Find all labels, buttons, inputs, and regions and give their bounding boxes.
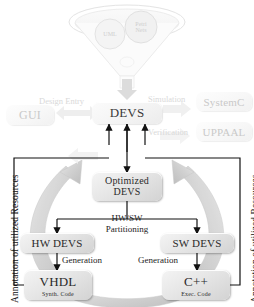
- funnel-source-uml-label: UML: [96, 31, 124, 37]
- edge-label-simulation: Simulation: [148, 94, 185, 104]
- edge-label-design-entry: Design Entry: [39, 96, 84, 106]
- funnel-source-petri-nets-label: Petri Nets: [128, 21, 154, 34]
- box-cpp-subtitle: Exec. Code: [181, 291, 211, 297]
- side-label-right: Annotation of utilized Resources: [250, 174, 254, 303]
- box-vhdl-subtitle: Synth. Code: [42, 291, 74, 297]
- box-sw-devs-label: SW DEVS: [172, 237, 221, 249]
- edge-label-verification: Verification: [148, 127, 188, 137]
- diagram-canvas: GUI DEVS SystemC UPPAAL Optimized DEVS H…: [0, 0, 254, 307]
- box-optimized-devs-line2: DEVS: [114, 187, 141, 198]
- box-devs[interactable]: DEVS: [92, 102, 162, 124]
- box-sw-devs[interactable]: SW DEVS: [160, 233, 234, 253]
- box-gui[interactable]: GUI: [6, 105, 54, 125]
- box-uppaal[interactable]: UPPAAL: [196, 122, 252, 141]
- box-hw-devs-label: HW DEVS: [31, 237, 82, 249]
- box-cpp[interactable]: C++ Exec. Code: [162, 270, 230, 300]
- box-optimized-devs-line1: Optimized: [105, 176, 149, 187]
- box-gui-label: GUI: [19, 108, 41, 123]
- box-vhdl-label: VHDL: [40, 274, 77, 290]
- box-hw-devs[interactable]: HW DEVS: [20, 233, 94, 253]
- edge-label-generation-left: Generation: [62, 255, 102, 265]
- diagram-artwork: [0, 0, 254, 307]
- box-devs-label: DEVS: [110, 105, 145, 121]
- edge-label-hwsw: HW/SW: [97, 213, 157, 223]
- side-label-left: Annotation of utilized Resources: [10, 174, 20, 303]
- box-uppaal-label: UPPAAL: [203, 126, 246, 138]
- funnel-graphic: [69, 5, 185, 88]
- box-cpp-label: C++: [184, 274, 208, 290]
- box-systemc[interactable]: SystemC: [196, 92, 252, 111]
- edge-label-generation-right: Generation: [138, 255, 178, 265]
- box-optimized-devs[interactable]: Optimized DEVS: [92, 172, 162, 201]
- edge-label-partitioning: Partitioning: [92, 224, 162, 234]
- box-systemc-label: SystemC: [203, 96, 244, 108]
- box-vhdl[interactable]: VHDL Synth. Code: [24, 270, 92, 300]
